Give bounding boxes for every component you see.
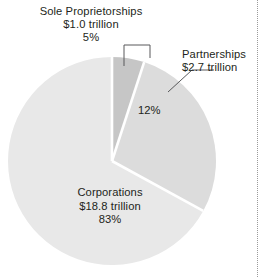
- slice-label-sole-proprietorships-percent: 5%: [30, 31, 152, 44]
- slice-label-sole-proprietorships-value: $1.0 trillion: [30, 18, 152, 31]
- slice-label-corporations-name: Corporations: [42, 186, 178, 200]
- slice-label-corporations-percent: 83%: [42, 213, 178, 227]
- slice-label-partnerships-name: Partnerships: [182, 48, 262, 61]
- slice-label-partnerships: Partnerships $2.7 trillion: [182, 48, 262, 74]
- slice-label-sole-proprietorships: Sole Proprietorships $1.0 trillion 5%: [30, 5, 152, 45]
- pie-chart-figure: Sole Proprietorships $1.0 trillion 5% Pa…: [0, 0, 263, 277]
- slice-percent-partnerships: 12%: [138, 104, 160, 116]
- slice-label-corporations-value: $18.8 trillion: [42, 200, 178, 214]
- page-margin-rule: [257, 0, 258, 277]
- slice-label-corporations: Corporations $18.8 trillion 83%: [42, 186, 178, 227]
- slice-label-sole-proprietorships-name: Sole Proprietorships: [30, 5, 152, 18]
- slice-label-partnerships-value: $2.7 trillion: [182, 61, 262, 74]
